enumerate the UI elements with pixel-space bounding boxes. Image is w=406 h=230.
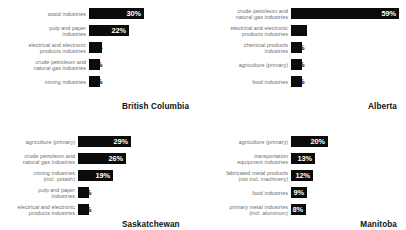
bar-value-label: 13%: [298, 154, 313, 163]
bar-row: pulp and paper industries 5%: [0, 187, 203, 198]
bar-value-label: 5%: [81, 188, 91, 197]
panel-title: Manitoba: [360, 220, 397, 229]
category-label: electrical and electronic products indus…: [0, 204, 78, 216]
panel-title: British Columbia: [122, 102, 189, 111]
panel-title: Saskatchewan: [122, 220, 180, 229]
bar-value-label: 6%: [92, 77, 102, 86]
bar: 6%: [291, 42, 302, 53]
category-label: crude petroleum and natural gas industri…: [0, 153, 78, 165]
bar-value-label: 30%: [127, 9, 142, 18]
bar-row: pulp and paper industries 22%: [0, 25, 203, 36]
bar-value-label: 59%: [382, 9, 397, 18]
bar-row: wood industries 30%: [0, 8, 203, 19]
bar-rows: agriculture (primary) 20% transportation…: [203, 136, 406, 215]
category-label: mining industries: [0, 79, 89, 85]
category-label: agriculture (primary): [203, 62, 291, 68]
bar: 9%: [291, 25, 307, 36]
bar-value-label: 7%: [92, 43, 102, 52]
bar-row: agriculture (primary) 29%: [0, 136, 203, 147]
bar: 5%: [78, 187, 89, 198]
category-label: pulp and paper industries: [0, 25, 89, 37]
bar: 30%: [89, 8, 144, 19]
category-label: crude petroleum and natural gas industri…: [0, 59, 89, 71]
bar: 6%: [89, 59, 100, 70]
bar-value-label: 4%: [294, 77, 304, 86]
bar-value-label: 29%: [114, 137, 129, 146]
category-label: fabricated metal products (not incl. mac…: [203, 170, 291, 182]
bar: 8%: [291, 204, 306, 215]
bar: 7%: [89, 42, 102, 53]
chart-panel-saskatchewan: agriculture (primary) 29% crude petroleu…: [0, 136, 203, 230]
bar-value-label: 19%: [96, 171, 111, 180]
category-label: food industries: [203, 190, 291, 196]
bar-value-label: 5%: [81, 205, 91, 214]
bar-value-label: 6%: [294, 43, 304, 52]
bar-row: food industries 4%: [203, 76, 406, 87]
bar: 5%: [78, 204, 89, 215]
bar-rows: crude petroleum and natural gas industri…: [203, 8, 406, 87]
bar-row: mining industries (incl. potash) 19%: [0, 170, 203, 181]
bar-row: primary metal industries (incl. aluminum…: [203, 204, 406, 215]
bar: 5%: [291, 59, 302, 70]
bar: 6%: [89, 76, 100, 87]
chart-panel-alberta: crude petroleum and natural gas industri…: [203, 8, 406, 112]
chart-panel-british-columbia: wood industries 30% pulp and paper indus…: [0, 8, 203, 112]
bar-value-label: 6%: [92, 60, 102, 69]
bar: 59%: [291, 8, 399, 19]
bar-value-label: 8%: [293, 205, 303, 214]
bar-value-label: 22%: [112, 26, 127, 35]
bar-value-label: 9%: [294, 188, 304, 197]
bar: 4%: [291, 76, 302, 87]
bar-rows: agriculture (primary) 29% crude petroleu…: [0, 136, 203, 215]
bar: 13%: [291, 153, 315, 164]
bar: 22%: [89, 25, 129, 36]
bar-row: transportation equipment industries 13%: [203, 153, 406, 164]
bar-value-label: 9%: [294, 26, 304, 35]
bar-row: crude petroleum and natural gas industri…: [0, 59, 203, 70]
chart-panel-manitoba: agriculture (primary) 20% transportation…: [203, 136, 406, 230]
category-label: mining industries (incl. potash): [0, 170, 78, 182]
bar-rows: wood industries 30% pulp and paper indus…: [0, 8, 203, 87]
bar-row: mining industries 6%: [0, 76, 203, 87]
bar: 29%: [78, 136, 131, 147]
bar-row: electrical and electronic products indus…: [0, 204, 203, 215]
bar-value-label: 12%: [296, 171, 311, 180]
bar-row: fabricated metal products (not incl. mac…: [203, 170, 406, 181]
category-label: primary metal industries (incl. aluminum…: [203, 204, 291, 216]
bar: 19%: [78, 170, 113, 181]
category-label: electrical and electronic products indus…: [0, 42, 89, 54]
category-label: wood industries: [0, 11, 89, 17]
bar-value-label: 5%: [294, 60, 304, 69]
bar-value-label: 26%: [109, 154, 124, 163]
bar-row: agriculture (primary) 5%: [203, 59, 406, 70]
category-label: food industries: [203, 79, 291, 85]
bar-row: food industries 9%: [203, 187, 406, 198]
category-label: pulp and paper industries: [0, 187, 78, 199]
category-label: crude petroleum and natural gas industri…: [203, 8, 291, 20]
bar-value-label: 20%: [311, 137, 326, 146]
bar-row: crude petroleum and natural gas industri…: [203, 8, 406, 19]
category-label: electrical and electronic products indus…: [203, 25, 291, 37]
bar-row: electrical and electronic products indus…: [203, 25, 406, 36]
bar-row: crude petroleum and natural gas industri…: [0, 153, 203, 164]
bar: 9%: [291, 187, 307, 198]
bar: 20%: [291, 136, 328, 147]
bar: 26%: [78, 153, 126, 164]
bar-row: agriculture (primary) 20%: [203, 136, 406, 147]
category-label: agriculture (primary): [0, 139, 78, 145]
category-label: transportation equipment industries: [203, 153, 291, 165]
bar-row: chemical products industries 6%: [203, 42, 406, 53]
bar-row: electrical and electronic products indus…: [0, 42, 203, 53]
panel-title: Alberta: [368, 102, 397, 111]
category-label: agriculture (primary): [203, 139, 291, 145]
bar-chart-grid: wood industries 30% pulp and paper indus…: [0, 0, 406, 230]
bar: 12%: [291, 170, 313, 181]
category-label: chemical products industries: [203, 42, 291, 54]
